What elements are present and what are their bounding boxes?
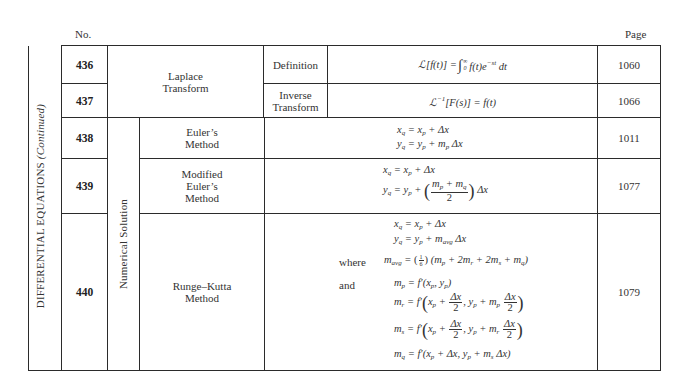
row-number-440: 440: [62, 214, 107, 370]
formula-laplace-inverse: ℒ−1[F(s)] = f(t): [328, 84, 597, 117]
header-no: No.: [75, 28, 91, 40]
page-1060: 1060: [598, 46, 660, 83]
row-number-439: 439: [62, 159, 107, 213]
formula-modified-eulers-method: xq = xp + Δx yq = yp + (mp + mq2) Δx: [383, 164, 553, 210]
page-1066: 1066: [598, 84, 660, 117]
row-number-437: 437: [62, 84, 107, 117]
row-number-436: 436: [62, 46, 107, 83]
formula-eulers-method: xq = xp + Δx yq = yp + mp Δx: [397, 124, 537, 154]
sub-definition: Definition: [264, 46, 327, 83]
page-1079: 1079: [598, 214, 660, 370]
page-1011: 1011: [598, 118, 660, 158]
page-1077: 1077: [598, 159, 660, 213]
section-label: DIFFERENTIAL EQUATIONS (Continued): [34, 86, 46, 326]
topic-modified-eulers-method: Modified Euler’s Method: [140, 159, 264, 213]
row-number-438: 438: [62, 118, 107, 158]
topic-eulers-method: Euler’s Method: [140, 118, 264, 158]
topic-runge-kutta-method: Runge–Kutta Method: [140, 214, 264, 370]
label-where: where: [339, 256, 366, 268]
topic-laplace-transform: Laplace Transform: [108, 46, 263, 117]
sub-inverse-transform: Inverse Transform: [264, 84, 327, 117]
formula-runge-kutta-method: xq = xp + Δx yq = yp + mavg Δx mavg = (1…: [384, 218, 594, 368]
formula-laplace-definition: ℒ[f(t)] = ∫∞0f(t)e−st dt: [328, 46, 597, 83]
group-label-numerical-solution: Numerical Solution: [117, 194, 129, 294]
header-page: Page: [625, 28, 646, 40]
label-and: and: [339, 279, 355, 291]
